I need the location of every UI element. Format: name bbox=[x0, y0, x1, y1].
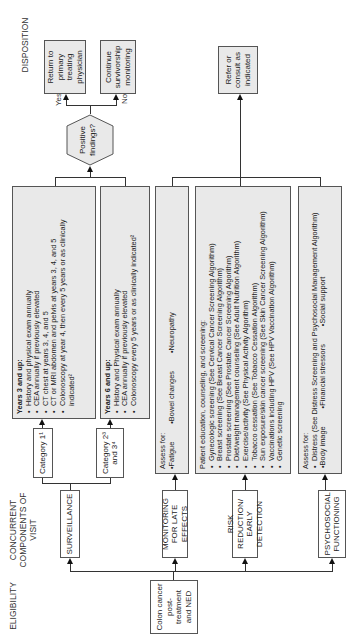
connector bbox=[240, 96, 241, 178]
arrow-icon bbox=[113, 94, 119, 100]
arrow-icon bbox=[329, 558, 335, 564]
connector-trunk bbox=[70, 571, 332, 572]
column-header-disposition: DISPOSITION bbox=[20, 5, 30, 85]
no-label: No bbox=[120, 94, 129, 104]
detail-item: Colonoscopy at year 4, then every 5 year… bbox=[59, 191, 76, 414]
late-effects-assess-box: Assess for: Fatigue Bowel changes Neurop… bbox=[155, 186, 189, 474]
assess-item: Social support bbox=[319, 277, 328, 326]
connector bbox=[66, 105, 116, 106]
connector bbox=[173, 572, 174, 580]
connector bbox=[240, 178, 241, 186]
psychosocial-assess-box: Assess for: Distress (See Distress Scree… bbox=[298, 186, 342, 474]
risk-reduction-details: Patient education, counseling, and scree… bbox=[195, 186, 291, 474]
assess-item: Fatigue bbox=[168, 442, 177, 469]
arrow-icon bbox=[237, 94, 243, 100]
arrow-icon bbox=[39, 419, 45, 425]
decision-label: Positive findings? bbox=[78, 118, 98, 162]
assess-item: Financial stressors bbox=[319, 344, 328, 408]
surveillance-category-2-3-details: Years 6 and up: History and Physical exa… bbox=[100, 186, 150, 419]
eligibility-box: Colon cancer post-treatment and NED bbox=[150, 580, 198, 634]
connector bbox=[172, 177, 321, 178]
detail-item: Colonoscopy every 5 years or as clinical… bbox=[130, 191, 139, 414]
arrow-icon bbox=[87, 166, 93, 172]
arrow-icon bbox=[172, 474, 178, 480]
connector bbox=[125, 178, 126, 186]
survivorship-algorithm-diagram: ELIGIBILITY CONCURRENT COMPONENTS OF VIS… bbox=[0, 0, 360, 640]
connector bbox=[70, 484, 71, 490]
category-2-3-box: Category 2³ and 3⁴ bbox=[96, 428, 124, 478]
connector bbox=[320, 178, 321, 186]
risk-item: Genetic screening bbox=[276, 191, 285, 469]
component-surveillance: SURVEILLANCE bbox=[60, 490, 80, 558]
column-header-concurrent: CONCURRENT COMPONENTS OF VISIT bbox=[8, 490, 38, 570]
disposition-continue: Continue survivorship monitoring bbox=[100, 40, 136, 94]
arrow-icon bbox=[242, 474, 248, 480]
yes-label: Yes bbox=[54, 93, 63, 106]
connector bbox=[110, 478, 111, 484]
assess-item: Bowel changes bbox=[168, 371, 177, 424]
component-risk-reduction: RISK REDUCTION/ EARLY DETECTION bbox=[232, 490, 258, 558]
arrow-icon bbox=[242, 558, 248, 564]
connector bbox=[55, 178, 56, 186]
arrow-icon bbox=[67, 558, 73, 564]
category-1-box: Category 1¹ bbox=[33, 428, 53, 478]
component-late-effects: MONITORING FOR LATE EFFECTS bbox=[162, 490, 188, 558]
assess-item: Distress (See Distress Screening and Psy… bbox=[311, 191, 320, 469]
assess-item: Neuropathy bbox=[168, 312, 177, 353]
connector bbox=[42, 478, 43, 484]
assess-item: Body image bbox=[319, 426, 328, 468]
connector bbox=[90, 106, 91, 114]
arrow-icon bbox=[322, 474, 328, 480]
connector bbox=[42, 483, 110, 484]
arrow-icon bbox=[107, 419, 113, 425]
column-header-eligibility: ELIGIBILITY bbox=[8, 576, 18, 636]
surveillance-category-1-details: Years 3 and up: History and physical exa… bbox=[12, 186, 96, 419]
disposition-return: Return to primary treating physician bbox=[44, 40, 86, 94]
disposition-refer: Refer or consult as indicated bbox=[218, 46, 258, 94]
arrow-icon bbox=[63, 94, 69, 100]
arrow-icon bbox=[172, 558, 178, 564]
component-psychosocial: PSYCHOSOCIAL FUNCTIONING bbox=[318, 490, 346, 558]
connector bbox=[172, 178, 173, 186]
